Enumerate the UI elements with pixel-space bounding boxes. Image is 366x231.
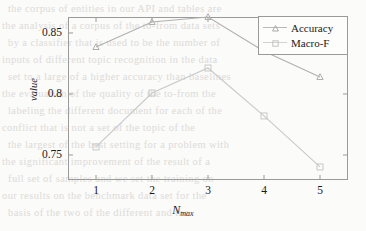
x-tick-label: 4	[254, 184, 274, 196]
chart-figure: the corpus of entities in our API and ta…	[0, 0, 366, 231]
legend-label-accuracy: Accuracy	[291, 22, 333, 34]
x-axis-label: Nmax	[143, 203, 223, 218]
x-tick-label: 3	[198, 184, 218, 196]
legend-label-macro-f: Macro-F	[291, 37, 330, 49]
y-tick-label: 0.8	[18, 87, 62, 99]
x-tick-label: 2	[142, 184, 162, 196]
x-axis-label-subscript: max	[180, 209, 193, 218]
y-tick-label: 0.75	[18, 148, 62, 160]
x-tick-label: 1	[86, 184, 106, 196]
legend-marker-square-icon	[263, 37, 287, 49]
chart-legend: Accuracy Macro-F	[258, 16, 348, 55]
series-line-macro-f	[96, 68, 320, 167]
legend-item-accuracy: Accuracy	[263, 20, 343, 35]
legend-item-macro-f: Macro-F	[263, 35, 343, 50]
y-axis-label: value	[28, 55, 39, 125]
x-tick-label: 5	[310, 184, 330, 196]
legend-marker-triangle-icon	[263, 22, 287, 34]
y-tick-label: 0.85	[18, 26, 62, 38]
